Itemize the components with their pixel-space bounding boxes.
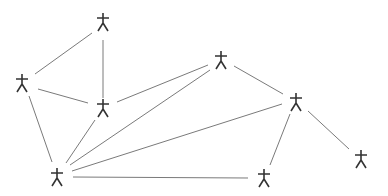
actor-icon[interactable] xyxy=(51,168,63,186)
edge-b-c xyxy=(38,89,88,103)
actor-icon[interactable] xyxy=(97,13,109,31)
edge-e-g xyxy=(270,114,290,165)
edges-layer xyxy=(29,33,349,178)
edge-e-f xyxy=(308,111,349,149)
actor-icon[interactable] xyxy=(258,169,270,187)
edge-d-h xyxy=(70,70,210,165)
actor-icon[interactable] xyxy=(215,51,227,69)
edge-d-e xyxy=(234,66,283,94)
edge-b-h xyxy=(29,96,52,162)
actor-icon[interactable] xyxy=(97,99,109,117)
edge-c-h xyxy=(66,120,95,163)
edge-c-d xyxy=(117,65,208,102)
network-diagram xyxy=(0,0,388,196)
actor-icon[interactable] xyxy=(290,93,302,111)
edge-h-g xyxy=(73,177,248,178)
actor-icon[interactable] xyxy=(16,74,28,92)
edge-a-b xyxy=(35,33,92,74)
nodes-layer xyxy=(16,13,367,187)
edge-e-h xyxy=(72,104,282,171)
actor-icon[interactable] xyxy=(355,150,367,168)
